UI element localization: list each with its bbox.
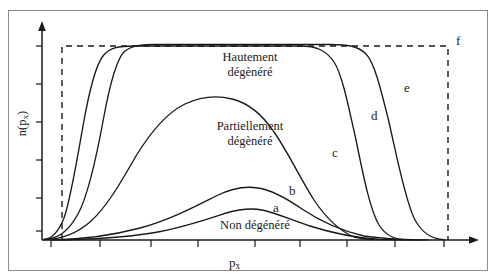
figure-root: n(px) px Hautement dégènéré Partiellemen… (0, 0, 497, 280)
region-label-partially-degenerate: Partiellement dégènéré (188, 119, 312, 149)
region-label-partially-line2: dégènéré (188, 134, 312, 149)
x-axis-arrowhead (469, 236, 479, 244)
x-axis-ticks (51, 240, 444, 247)
y-axis-ticks (36, 46, 42, 231)
region-label-highly-degenerate: Hautement dégènéré (196, 50, 304, 80)
curve-label-b: b (289, 183, 296, 198)
region-label-highly-line1: Hautement (196, 50, 304, 65)
x-axis-label: px (229, 255, 240, 270)
region-label-partially-line1: Partiellement (188, 119, 312, 134)
region-label-non-degenerate: Non dégénéré (205, 218, 305, 233)
curve-label-e: e (404, 80, 410, 95)
curve-label-d: d (371, 108, 378, 123)
curve-label-f: f (456, 33, 460, 48)
y-axis-label: n(px) (15, 94, 30, 154)
y-axis-arrowhead (38, 21, 46, 31)
curve-label-c: c (332, 145, 338, 160)
region-label-highly-line2: dégènéré (196, 65, 304, 80)
curve-label-a: a (273, 200, 279, 215)
